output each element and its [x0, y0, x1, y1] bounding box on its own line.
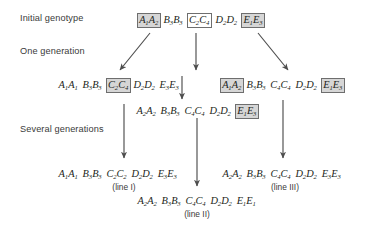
locus: E1E3 [241, 13, 265, 28]
locus: B3B3 [246, 79, 267, 93]
allele-subscript: 3 [179, 20, 182, 27]
locus: D2D2 [210, 195, 233, 209]
allele-subscript: 3 [89, 174, 92, 181]
locus: A2A2 [136, 105, 157, 119]
allele-subscript: 3 [337, 174, 340, 181]
locus: B3B3 [160, 105, 181, 119]
allele: C4 [199, 15, 209, 25]
locus: C4C4 [270, 168, 292, 182]
allele: E1 [243, 15, 253, 25]
allele-subscript: 2 [143, 111, 146, 118]
allele: E3 [167, 169, 177, 179]
allele: D2 [221, 196, 232, 206]
allele: E1 [237, 106, 247, 116]
genotype-inheritance-diagram: Initial genotype One generation Several … [0, 0, 371, 233]
allele-subscript: 4 [192, 201, 195, 208]
allele: A2 [232, 169, 242, 179]
allele: A1 [59, 169, 69, 179]
locus: B3B3 [246, 168, 267, 182]
locus: E1E3 [235, 104, 259, 119]
allele: C2 [108, 80, 118, 90]
allele-subscript: 2 [229, 174, 232, 181]
allele-subscript: 3 [253, 111, 256, 118]
allele-subscript: 4 [201, 111, 204, 118]
allele: B3 [256, 169, 266, 179]
allele: B3 [246, 80, 256, 90]
allele: A2 [138, 196, 148, 206]
allele: C4 [281, 80, 291, 90]
locus: C4C4 [184, 105, 206, 119]
locus: A2A2 [222, 168, 243, 182]
allele-subscript: 2 [238, 174, 241, 181]
allele: D2 [209, 106, 220, 116]
allele-subscript: 2 [115, 85, 118, 92]
allele: E3 [158, 169, 168, 179]
locus: A1A2 [137, 13, 161, 28]
line-label-III: (line III) [271, 182, 299, 192]
allele: B3 [92, 80, 102, 90]
allele-subscript: 2 [144, 201, 147, 208]
locus: B3B3 [163, 14, 184, 28]
allele-subscript: 1 [252, 201, 255, 208]
allele: C4 [281, 169, 291, 179]
allele-subscript: 3 [168, 201, 171, 208]
allele-subscript: 2 [113, 174, 116, 181]
allele: B3 [82, 169, 92, 179]
allele-subscript: 1 [243, 201, 246, 208]
allele: C4 [270, 80, 280, 90]
allele-subscript: 2 [234, 20, 237, 27]
allele-subscript: 4 [202, 201, 205, 208]
allele-subscript: 4 [287, 85, 290, 92]
allele-subscript: 1 [65, 85, 68, 92]
allele: D2 [220, 106, 231, 116]
allele: B3 [171, 196, 181, 206]
locus: C2C4 [106, 78, 131, 93]
stage-label-several-generations: Several generations [20, 124, 104, 134]
allele: B3 [163, 15, 173, 25]
allele: B3 [160, 106, 170, 116]
allele-subscript: 2 [314, 85, 317, 92]
locus: A1A1 [58, 79, 79, 93]
allele: B3 [170, 106, 180, 116]
allele: E3 [253, 15, 263, 25]
locus: C4C4 [185, 195, 207, 209]
allele-subscript: 2 [303, 174, 306, 181]
allele-subscript: 3 [339, 85, 342, 92]
allele: C2 [189, 15, 199, 25]
allele-subscript: 4 [191, 111, 194, 118]
locus: D2D2 [131, 168, 154, 182]
genotype-gen1-middle: A2A2B3B3C4C4D2D2E1E3 [136, 104, 259, 119]
allele: D2 [306, 169, 317, 179]
allele-subscript: 2 [123, 174, 126, 181]
allele: D2 [295, 169, 306, 179]
allele-subscript: 3 [89, 85, 92, 92]
allele-subscript: 3 [166, 85, 169, 92]
allele-subscript: 4 [206, 20, 209, 27]
allele: A2 [232, 80, 242, 90]
allele-subscript: 3 [253, 85, 256, 92]
stage-label-one-generation: One generation [20, 46, 85, 56]
allele: E3 [333, 80, 343, 90]
allele: D2 [142, 169, 153, 179]
allele-subscript: 1 [329, 85, 332, 92]
allele: D2 [210, 196, 221, 206]
allele: A2 [137, 106, 147, 116]
allele-subscript: 1 [250, 20, 253, 27]
allele: E3 [169, 80, 179, 90]
line-label-II: (line II) [184, 209, 210, 219]
allele-subscript: 3 [262, 85, 265, 92]
locus: A2A2 [137, 195, 158, 209]
allele: C2 [117, 169, 127, 179]
arrow-initial-to-gen1-right [258, 33, 288, 70]
locus: C4C4 [270, 79, 292, 93]
allele: D2 [131, 169, 142, 179]
allele-subscript: 2 [141, 85, 144, 92]
allele: E1 [246, 196, 256, 206]
allele-subscript: 2 [217, 111, 220, 118]
genotype-gen1-left: A1A1B3B3C2C4D2D2E3E3 [58, 78, 180, 93]
allele: E1 [237, 196, 247, 206]
locus: D2D2 [209, 105, 232, 119]
locus: E3E3 [159, 79, 180, 93]
allele: C4 [185, 196, 195, 206]
allele-subscript: 4 [277, 85, 280, 92]
